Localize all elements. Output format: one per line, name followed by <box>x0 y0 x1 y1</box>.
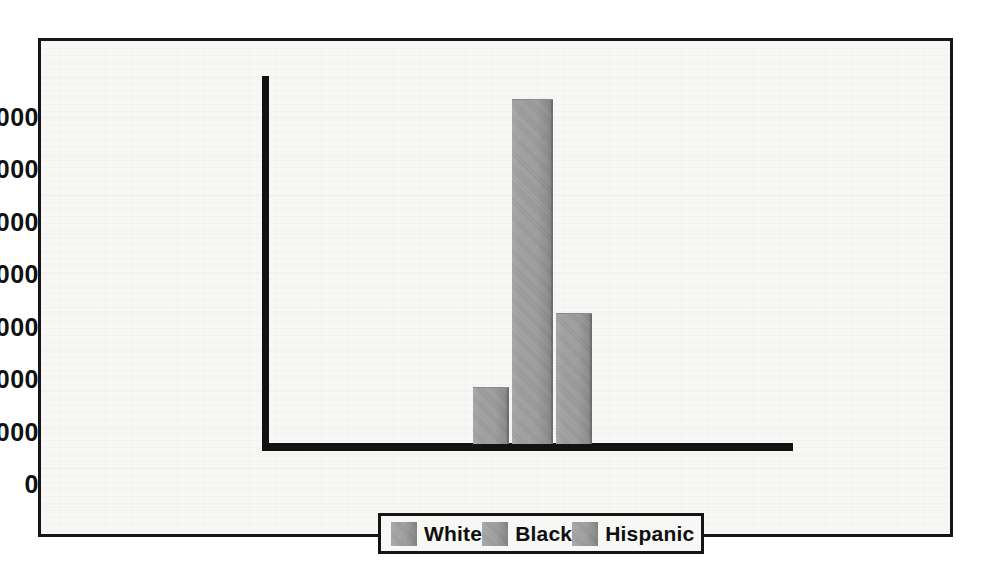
bar-black <box>512 99 553 444</box>
legend-label: Hispanic <box>605 522 694 546</box>
y-axis-tick-label: 0 <box>0 472 39 497</box>
legend-entry-white: White <box>391 522 482 546</box>
chart-legend: White Black Hispanic <box>378 513 704 554</box>
plot-area: 7,000 6,000 5,000 4,000 3,000 2,000 1,00… <box>41 41 950 534</box>
y-axis-line <box>262 76 269 451</box>
legend-label: Black <box>515 522 572 546</box>
page-canvas: 7,000 6,000 5,000 4,000 3,000 2,000 1,00… <box>0 0 987 562</box>
legend-swatch-icon <box>482 522 508 546</box>
bar-white <box>473 387 509 444</box>
y-axis-tick-label: 3,000 <box>0 315 39 340</box>
legend-label: White <box>424 522 482 546</box>
chart-frame: 7,000 6,000 5,000 4,000 3,000 2,000 1,00… <box>38 38 953 537</box>
y-axis-tick-label: 7,000 <box>0 105 39 130</box>
y-axis-tick-label: 5,000 <box>0 210 39 235</box>
legend-swatch-icon <box>572 522 598 546</box>
y-axis-tick-label: 6,000 <box>0 157 39 182</box>
y-axis-tick-label: 2,000 <box>0 367 39 392</box>
y-axis-tick-label: 1,000 <box>0 420 39 445</box>
legend-entry-hispanic: Hispanic <box>572 522 694 546</box>
x-axis-line <box>262 443 793 451</box>
y-axis-tick-label: 4,000 <box>0 262 39 287</box>
legend-swatch-icon <box>391 522 417 546</box>
bar-hispanic <box>556 313 592 444</box>
legend-entry-black: Black <box>482 522 572 546</box>
